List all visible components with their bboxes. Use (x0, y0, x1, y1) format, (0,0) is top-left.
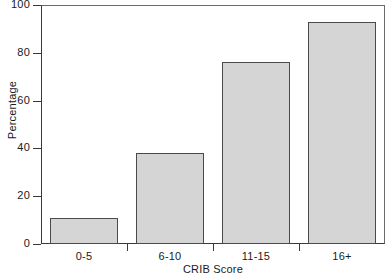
y-tick-label-20: 20 (0, 189, 30, 201)
bar-6-10 (136, 153, 203, 244)
x-tick-label-16+: 16+ (299, 250, 385, 262)
y-tick-20 (33, 196, 41, 197)
bar-16+ (308, 22, 375, 244)
x-tick-label-6-10: 6-10 (127, 250, 213, 262)
bar-11-15 (222, 62, 289, 244)
y-tick-label-100: 100 (0, 0, 30, 10)
x-tick-label-0-5: 0-5 (41, 250, 127, 262)
y-tick-80 (33, 53, 41, 54)
y-axis-title: Percentage (6, 65, 18, 155)
y-tick-60 (33, 101, 41, 102)
x-tick-label-11-15: 11-15 (213, 250, 299, 262)
y-tick-40 (33, 148, 41, 149)
bars-layer (41, 5, 385, 244)
bar-chart-figure: 020406080100 Percentage 0-56-1011-1516+ … (0, 0, 388, 275)
y-tick-100 (33, 5, 41, 6)
x-axis-title: CRIB Score (41, 263, 385, 275)
y-tick-label-0: 0 (0, 237, 30, 249)
bar-0-5 (50, 218, 117, 244)
y-tick-label-80: 80 (0, 46, 30, 58)
y-tick-0 (33, 244, 41, 245)
